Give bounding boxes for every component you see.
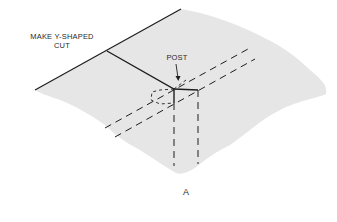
y-cut-diagram: MAKE Y-SHAPED CUT POST A <box>0 0 337 222</box>
cut-instruction-label: MAKE Y-SHAPED CUT <box>22 32 102 50</box>
cut-label-line1: MAKE Y-SHAPED <box>22 32 102 41</box>
post-label: POST <box>160 53 194 62</box>
figure-caption: A <box>178 188 194 197</box>
cut-label-line2: CUT <box>22 41 102 50</box>
